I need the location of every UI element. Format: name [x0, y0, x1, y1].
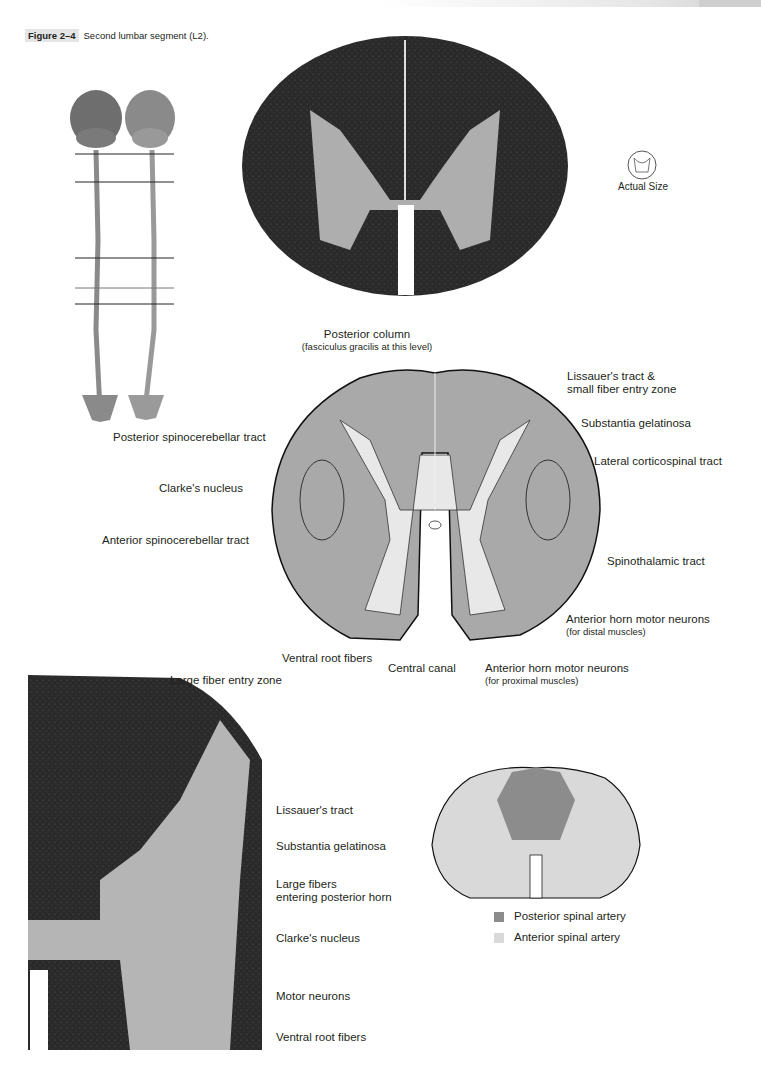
- label-clarkes-nucleus: Clarke's nucleus: [159, 482, 243, 495]
- label-large-fiber-entry: Large fiber entry zone: [170, 674, 282, 687]
- label-text: Anterior horn motor neurons: [566, 613, 710, 625]
- label-anterior-spinocerebellar: Anterior spinocerebellar tract: [102, 534, 249, 547]
- label-ant-horn-distal: Anterior horn motor neurons (for distal …: [566, 613, 710, 638]
- label-text: Posterior column: [324, 328, 410, 340]
- label-text: Lissauer's tract &: [567, 370, 655, 382]
- blood-supply-diagram: [432, 767, 640, 898]
- label-photo-ventral-root: Ventral root fibers: [276, 1031, 366, 1044]
- legend-swatch-anterior: [494, 933, 504, 943]
- legend-label: Anterior spinal artery: [514, 931, 620, 944]
- label-text: entering posterior horn: [276, 891, 392, 903]
- label-large-fibers: Large fibers entering posterior horn: [276, 878, 392, 904]
- label-lissauer-entry: Lissauer's tract & small fiber entry zon…: [567, 370, 676, 396]
- label-spinothalamic: Spinothalamic tract: [607, 555, 705, 568]
- label-subtext: (fasciculus gracilis at this level): [272, 341, 462, 353]
- label-text: small fiber entry zone: [567, 383, 676, 395]
- label-text: Anterior horn motor neurons: [485, 662, 629, 674]
- label-ant-horn-proximal: Anterior horn motor neurons (for proxima…: [485, 662, 629, 687]
- label-subtext: (for proximal muscles): [485, 675, 629, 687]
- legend: Posterior spinal artery Anterior spinal …: [494, 910, 626, 944]
- label-lateral-corticospinal: Lateral corticospinal tract: [594, 455, 722, 468]
- label-subtext: (for distal muscles): [566, 626, 710, 638]
- label-ventral-root: Ventral root fibers: [282, 652, 372, 665]
- actual-size-label: Actual Size: [618, 180, 668, 193]
- label-substantia-gelatinosa: Substantia gelatinosa: [581, 417, 691, 430]
- label-lissauer: Lissauer's tract: [276, 804, 353, 817]
- legend-swatch-posterior: [494, 912, 504, 922]
- stained-section-photo: [242, 36, 568, 296]
- label-text: Large fibers: [276, 878, 337, 890]
- posterior-horn-photo: [28, 675, 262, 1050]
- brain-spinal-cord-thumbnail: [70, 90, 175, 422]
- label-posterior-spinocerebellar: Posterior spinocerebellar tract: [113, 431, 266, 444]
- label-central-canal: Central canal: [388, 662, 456, 675]
- schematic-cross-section: [272, 370, 600, 640]
- label-photo-clarkes: Clarke's nucleus: [276, 932, 360, 945]
- label-motor-neurons: Motor neurons: [276, 990, 350, 1003]
- actual-size-icon: [628, 151, 656, 179]
- legend-item: Anterior spinal artery: [494, 931, 626, 944]
- legend-label: Posterior spinal artery: [514, 910, 626, 923]
- legend-item: Posterior spinal artery: [494, 910, 626, 923]
- label-posterior-column: Posterior column (fasciculus gracilis at…: [272, 328, 462, 353]
- label-substantia: Substantia gelatinosa: [276, 840, 386, 853]
